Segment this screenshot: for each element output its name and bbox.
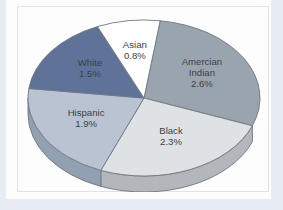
pie-chart-svg: AmercianIndian2.6%Black2.3%Hispanic1.9%W… (17, 6, 269, 192)
pie-label-black: Black2.3% (159, 125, 183, 147)
figure-root: AmercianIndian2.6%Black2.3%Hispanic1.9%W… (0, 0, 283, 210)
chart-card: AmercianIndian2.6%Black2.3%Hispanic1.9%W… (6, 0, 271, 199)
pie-label-asian: Asian0.8% (123, 39, 147, 61)
pie-label-white: White1.5% (78, 57, 103, 79)
pie-chart: AmercianIndian2.6%Black2.3%Hispanic1.9%W… (17, 6, 269, 192)
